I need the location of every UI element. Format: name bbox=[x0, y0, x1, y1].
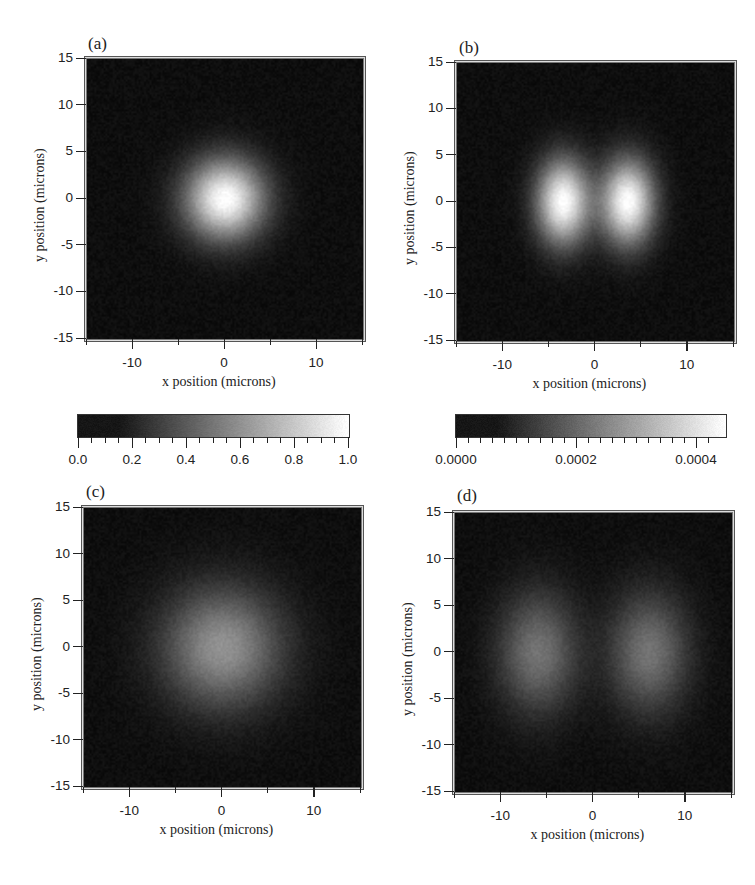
colorbar-tick-minor bbox=[588, 437, 589, 443]
heatmap-plot bbox=[456, 62, 735, 342]
heatmap-plot bbox=[86, 58, 364, 340]
x-tick-minor bbox=[640, 341, 641, 347]
x-tick-major bbox=[686, 341, 687, 351]
colorbar-tick-major bbox=[78, 437, 79, 448]
colorbar-tick-minor bbox=[612, 437, 613, 443]
colorbar-tick-minor bbox=[684, 437, 685, 443]
x-tick-label: 10 bbox=[671, 808, 699, 823]
colorbar-tick-minor bbox=[648, 437, 649, 443]
heatmap-canvas bbox=[457, 63, 734, 341]
x-tick-label: 10 bbox=[300, 803, 328, 818]
colorbar-tick-minor bbox=[253, 437, 254, 443]
x-tick-minor bbox=[83, 787, 84, 793]
x-tick-label: 0 bbox=[208, 803, 236, 818]
x-tick-major bbox=[594, 341, 595, 351]
y-tick bbox=[444, 744, 454, 745]
x-tick-label: 0 bbox=[210, 355, 238, 370]
panel-label: (d) bbox=[457, 486, 477, 506]
colorbar-tick-label: 0.0 bbox=[48, 452, 108, 467]
y-tick bbox=[76, 104, 86, 105]
y-tick-label: 10 bbox=[428, 100, 443, 115]
y-tick bbox=[73, 507, 83, 508]
y-tick bbox=[76, 244, 86, 245]
y-tick-label: -10 bbox=[423, 286, 443, 301]
colorbar-tick-label: 0.8 bbox=[264, 452, 324, 467]
colorbar-tick-minor bbox=[660, 437, 661, 443]
y-tick-label: 0 bbox=[62, 639, 70, 654]
colorbar-tick-major bbox=[348, 437, 349, 448]
x-tick-major bbox=[500, 792, 501, 802]
y-tick-label: -15 bbox=[50, 778, 70, 793]
x-tick-label: 10 bbox=[673, 357, 701, 372]
heatmap-canvas bbox=[455, 513, 732, 792]
y-tick-label: -5 bbox=[58, 685, 70, 700]
colorbar-tick-minor bbox=[552, 437, 553, 443]
y-tick-label: 5 bbox=[435, 147, 443, 162]
colorbar-tick-label: 0.4 bbox=[156, 452, 216, 467]
y-tick-label: 0 bbox=[435, 193, 443, 208]
y-tick bbox=[73, 646, 83, 647]
heatmap-plot bbox=[454, 512, 733, 793]
heatmap-canvas bbox=[84, 508, 361, 787]
x-axis-label: x position (microns) bbox=[531, 827, 645, 843]
colorbar-tick-minor bbox=[468, 437, 469, 443]
panel-label: (a) bbox=[88, 34, 107, 54]
y-tick-label: -10 bbox=[50, 732, 70, 747]
y-axis-label: y position (microns) bbox=[402, 151, 418, 265]
y-tick bbox=[444, 791, 454, 792]
x-tick-minor bbox=[731, 792, 732, 798]
y-tick bbox=[73, 600, 83, 601]
x-tick-label: -10 bbox=[488, 357, 516, 372]
colorbar-tick-minor bbox=[159, 437, 160, 443]
colorbar-tick-minor bbox=[105, 437, 106, 443]
colorbar-tick-minor bbox=[480, 437, 481, 443]
y-tick bbox=[444, 558, 454, 559]
panel-label: (c) bbox=[86, 482, 105, 502]
y-tick bbox=[76, 198, 86, 199]
colorbar-tick-minor bbox=[528, 437, 529, 443]
y-tick-label: -10 bbox=[53, 283, 73, 298]
heatmap-canvas bbox=[87, 59, 363, 339]
colorbar-tick-minor bbox=[600, 437, 601, 443]
x-tick-label: -10 bbox=[115, 803, 143, 818]
x-tick-minor bbox=[548, 341, 549, 347]
y-tick-label: 15 bbox=[428, 54, 443, 69]
y-tick bbox=[76, 58, 86, 59]
colorbar-tick-minor bbox=[307, 437, 308, 443]
y-tick-label: 10 bbox=[55, 546, 70, 561]
x-tick-minor bbox=[546, 792, 547, 798]
y-tick bbox=[444, 605, 454, 606]
x-tick-label: 0 bbox=[581, 357, 609, 372]
x-tick-major bbox=[132, 339, 133, 349]
x-tick-minor bbox=[86, 339, 87, 345]
y-tick-label: -5 bbox=[429, 690, 441, 705]
x-tick-major bbox=[592, 792, 593, 802]
y-tick bbox=[73, 553, 83, 554]
heatmap-plot bbox=[83, 507, 362, 788]
colorbar-tick-label: 0.0000 bbox=[426, 452, 486, 467]
y-tick-label: -15 bbox=[421, 783, 441, 798]
colorbar-canvas bbox=[78, 415, 349, 437]
y-tick bbox=[76, 151, 86, 152]
colorbar-tick-minor bbox=[564, 437, 565, 443]
y-tick-label: -10 bbox=[421, 737, 441, 752]
y-axis-label: y position (microns) bbox=[29, 597, 45, 711]
colorbar-tick-label: 0.0002 bbox=[546, 452, 606, 467]
y-tick bbox=[73, 693, 83, 694]
colorbar-tick-minor bbox=[213, 437, 214, 443]
colorbar-left bbox=[77, 414, 350, 438]
y-tick bbox=[446, 62, 456, 63]
colorbar-right bbox=[455, 414, 727, 438]
colorbar-tick-minor bbox=[199, 437, 200, 443]
y-tick bbox=[446, 247, 456, 248]
colorbar-tick-major bbox=[696, 437, 697, 448]
x-tick-major bbox=[316, 339, 317, 349]
colorbar-canvas bbox=[456, 415, 726, 437]
colorbar-tick-minor bbox=[280, 437, 281, 443]
colorbar-tick-minor bbox=[118, 437, 119, 443]
y-tick-label: 0 bbox=[65, 190, 73, 205]
y-tick bbox=[446, 293, 456, 294]
x-tick-minor bbox=[638, 792, 639, 798]
colorbar-tick-major bbox=[240, 437, 241, 448]
x-tick-major bbox=[224, 339, 225, 349]
